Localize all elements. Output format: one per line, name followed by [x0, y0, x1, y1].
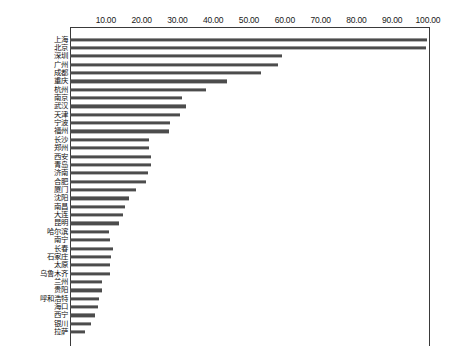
x-tick-label: 30.00: [167, 14, 187, 26]
bar: [70, 222, 119, 225]
bar-track: [70, 286, 428, 294]
bar-track: [70, 161, 428, 169]
bar-track: [70, 94, 428, 102]
bar-track: [70, 152, 428, 160]
x-tick-label: 60.00: [275, 14, 295, 26]
bar-track: [70, 127, 428, 135]
bar-track: [70, 295, 428, 303]
x-tick-label: 10.00: [96, 14, 116, 26]
x-axis-tick-labels: 10.0020.0030.0040.0050.0060.0070.0080.00…: [0, 14, 450, 26]
bar-track: [70, 44, 428, 52]
bar-track: [70, 35, 428, 43]
bar: [70, 147, 149, 150]
bar-track: [70, 77, 428, 85]
bar-track: [70, 320, 428, 328]
bar: [70, 38, 427, 41]
bar: [70, 239, 110, 242]
bar: [70, 113, 180, 116]
bar-track: [70, 52, 428, 60]
bar-track: [70, 111, 428, 119]
x-tick-label: 70.00: [310, 14, 330, 26]
x-tick-label: 80.00: [346, 14, 366, 26]
bar-track: [70, 278, 428, 286]
bar: [70, 172, 148, 175]
bar: [70, 138, 149, 141]
bar: [70, 289, 102, 292]
bar-track: [70, 169, 428, 177]
bar: [70, 105, 186, 108]
bar-chart: 10.0020.0030.0040.0050.0060.0070.0080.00…: [0, 0, 450, 362]
bar-track: [70, 311, 428, 319]
bar-track: [70, 136, 428, 144]
x-tick-label: 40.00: [203, 14, 223, 26]
bar-track: [70, 228, 428, 236]
bar: [70, 130, 169, 133]
x-tick-label: 50.00: [239, 14, 259, 26]
bar-track: [70, 69, 428, 77]
bar: [70, 255, 111, 258]
x-tick-label: 90.00: [382, 14, 402, 26]
bar: [70, 96, 182, 99]
bar-track: [70, 244, 428, 252]
bar: [70, 80, 227, 83]
bar-track: [70, 144, 428, 152]
bar-track: [70, 194, 428, 202]
bar-row: 拉萨: [0, 328, 450, 336]
bar-track: [70, 211, 428, 219]
bar: [70, 71, 261, 74]
bar: [70, 230, 109, 233]
bar-track: [70, 236, 428, 244]
bar: [70, 188, 136, 191]
bar: [70, 55, 282, 58]
bar: [70, 272, 110, 275]
bar: [70, 180, 146, 183]
x-tick-label: 20.00: [131, 14, 151, 26]
bar-track: [70, 203, 428, 211]
bar-track: [70, 219, 428, 227]
bar: [70, 264, 110, 267]
bar-track: [70, 86, 428, 94]
bar-track: [70, 303, 428, 311]
bar: [70, 88, 206, 91]
bar-track: [70, 253, 428, 261]
bar-track: [70, 177, 428, 185]
bar: [70, 122, 170, 125]
bar: [70, 331, 85, 334]
bar-track: [70, 60, 428, 68]
bar-track: [70, 186, 428, 194]
bar: [70, 280, 102, 283]
bar-track: [70, 119, 428, 127]
bar-track: [70, 102, 428, 110]
bar: [70, 46, 426, 49]
bar: [70, 155, 151, 158]
bar-rows: 上海北京深圳广州成都重庆杭州南京武汉天津宁波福州长沙郑州西安青岛济南合肥厦门沈阳…: [0, 27, 450, 353]
bar: [70, 305, 98, 308]
bar: [70, 63, 278, 66]
bar: [70, 205, 125, 208]
bar-track: [70, 328, 428, 336]
bar: [70, 322, 91, 325]
bar: [70, 163, 151, 166]
bar: [70, 213, 123, 216]
category-label: 拉萨: [54, 328, 68, 336]
bar: [70, 197, 129, 200]
bar: [70, 314, 95, 317]
bar: [70, 297, 99, 300]
bar-track: [70, 269, 428, 277]
x-tick-label: 100.00: [416, 14, 441, 26]
bar-track: [70, 261, 428, 269]
bar: [70, 247, 113, 250]
